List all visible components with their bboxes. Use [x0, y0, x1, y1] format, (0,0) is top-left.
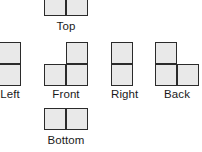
cell	[44, 108, 66, 130]
view-label-right: Right	[111, 88, 133, 101]
shape-bottom	[44, 108, 88, 130]
cell	[0, 64, 21, 86]
shape-back	[155, 42, 199, 86]
cell	[0, 42, 21, 64]
view-front	[44, 42, 88, 86]
cell	[111, 64, 133, 86]
view-bottom	[44, 108, 88, 130]
view-label-front: Front	[44, 88, 88, 101]
cell	[155, 64, 177, 86]
cell	[111, 42, 133, 64]
view-right	[111, 42, 133, 86]
cell	[66, 108, 88, 130]
orthographic-views-diagram: TopLeftFrontRightBackBottom	[0, 0, 202, 152]
cell	[44, 64, 66, 86]
cell	[155, 42, 177, 64]
view-label-top: Top	[44, 20, 88, 33]
view-label-back: Back	[155, 88, 199, 101]
view-label-bottom: Bottom	[44, 134, 88, 147]
view-back	[155, 42, 199, 86]
cell	[66, 0, 88, 16]
cell	[66, 64, 88, 86]
cell	[66, 42, 88, 64]
cell	[177, 64, 199, 86]
view-label-left: Left	[0, 88, 21, 101]
shape-right	[111, 42, 133, 86]
cell	[44, 0, 66, 16]
view-left	[0, 42, 21, 86]
view-top	[44, 0, 88, 16]
shape-left	[0, 42, 21, 86]
shape-front	[44, 42, 88, 86]
shape-top	[44, 0, 88, 16]
